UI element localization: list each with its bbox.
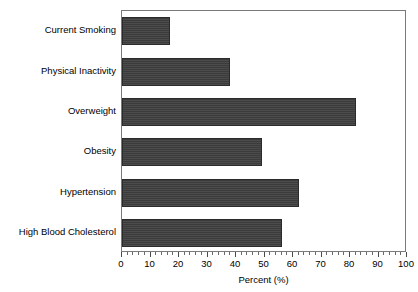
bar — [122, 138, 262, 166]
bar — [122, 98, 356, 126]
x-tick-minor — [138, 252, 139, 255]
category-label: High Blood Cholesterol — [0, 227, 116, 237]
category-label: Overweight — [0, 106, 116, 116]
x-tick-label: 0 — [106, 258, 136, 269]
x-tick-major — [235, 252, 236, 257]
x-tick-minor — [224, 252, 225, 255]
x-tick-minor — [303, 252, 304, 255]
x-tick-minor — [332, 252, 333, 255]
x-tick-minor — [326, 252, 327, 255]
x-tick-minor — [338, 252, 339, 255]
category-label: Hypertension — [0, 187, 116, 197]
x-tick-major — [321, 252, 322, 257]
x-tick-minor — [155, 252, 156, 255]
x-tick-minor — [298, 252, 299, 255]
bar-chart: Current SmokingPhysical InactivityOverwe… — [0, 0, 418, 292]
x-tick-minor — [269, 252, 270, 255]
x-tick-minor — [281, 252, 282, 255]
x-tick-minor — [372, 252, 373, 255]
x-axis-title: Percent (%) — [121, 274, 406, 285]
x-tick-label: 10 — [135, 258, 165, 269]
x-tick-minor — [400, 252, 401, 255]
bar — [122, 17, 170, 45]
x-tick-minor — [383, 252, 384, 255]
x-tick-label: 80 — [334, 258, 364, 269]
x-tick-label: 90 — [363, 258, 393, 269]
x-tick-minor — [144, 252, 145, 255]
x-tick-minor — [246, 252, 247, 255]
category-axis-labels: Current SmokingPhysical InactivityOverwe… — [0, 10, 116, 252]
category-label: Obesity — [0, 146, 116, 156]
x-tick-major — [406, 252, 407, 257]
x-tick-minor — [161, 252, 162, 255]
category-label: Physical Inactivity — [0, 66, 116, 76]
x-tick-major — [121, 252, 122, 257]
x-tick-major — [178, 252, 179, 257]
x-tick-minor — [218, 252, 219, 255]
x-tick-minor — [184, 252, 185, 255]
x-tick-minor — [195, 252, 196, 255]
x-tick-major — [349, 252, 350, 257]
x-tick-minor — [189, 252, 190, 255]
x-tick-minor — [366, 252, 367, 255]
bar — [122, 219, 282, 247]
x-tick-label: 70 — [306, 258, 336, 269]
x-tick-minor — [355, 252, 356, 255]
x-tick-minor — [286, 252, 287, 255]
bar — [122, 58, 230, 86]
x-tick-minor — [309, 252, 310, 255]
bar — [122, 179, 299, 207]
x-tick-minor — [258, 252, 259, 255]
x-tick-minor — [167, 252, 168, 255]
x-tick-minor — [343, 252, 344, 255]
x-tick-label: 100 — [391, 258, 418, 269]
plot-area — [121, 10, 406, 252]
x-axis: Percent (%) 0102030405060708090100 — [121, 252, 406, 292]
x-tick-minor — [389, 252, 390, 255]
x-tick-major — [150, 252, 151, 257]
x-tick-label: 40 — [220, 258, 250, 269]
x-tick-major — [207, 252, 208, 257]
x-tick-minor — [395, 252, 396, 255]
x-tick-minor — [241, 252, 242, 255]
x-tick-label: 20 — [163, 258, 193, 269]
x-tick-minor — [275, 252, 276, 255]
x-tick-minor — [127, 252, 128, 255]
x-tick-minor — [360, 252, 361, 255]
x-tick-label: 50 — [249, 258, 279, 269]
x-tick-major — [264, 252, 265, 257]
x-tick-major — [292, 252, 293, 257]
x-tick-minor — [201, 252, 202, 255]
x-tick-major — [378, 252, 379, 257]
bars-container — [122, 11, 405, 251]
x-tick-label: 60 — [277, 258, 307, 269]
x-tick-minor — [229, 252, 230, 255]
x-tick-minor — [132, 252, 133, 255]
x-tick-minor — [212, 252, 213, 255]
x-tick-minor — [315, 252, 316, 255]
x-tick-label: 30 — [192, 258, 222, 269]
x-tick-minor — [252, 252, 253, 255]
category-label: Current Smoking — [0, 25, 116, 35]
x-tick-minor — [172, 252, 173, 255]
